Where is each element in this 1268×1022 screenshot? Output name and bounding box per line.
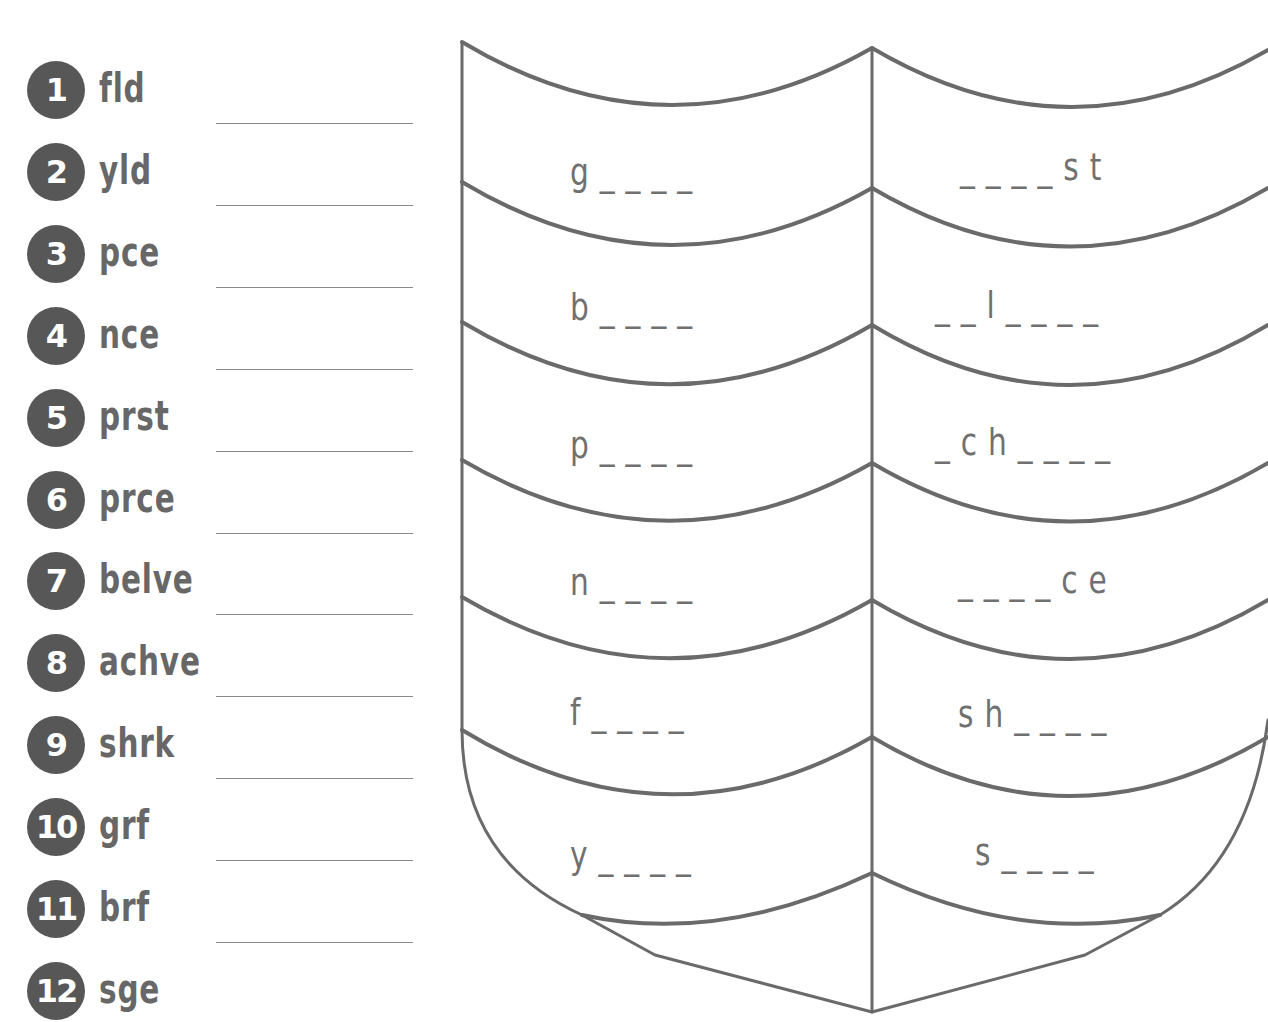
abbreviated-word: sge [99, 964, 160, 1014]
abbreviated-word: grf [99, 800, 150, 850]
answer-line[interactable] [216, 696, 413, 697]
shield-right-slot-1[interactable]: _ _ _ _ s t [960, 145, 1102, 189]
word-item-8: 8 achve [27, 634, 427, 694]
shield-left-edge [462, 42, 582, 915]
answer-line[interactable] [216, 778, 413, 779]
shield-right-slot-4[interactable]: _ _ _ _ c e [958, 558, 1108, 602]
answer-line[interactable] [216, 369, 413, 370]
abbreviated-word: belve [99, 554, 194, 604]
number-badge: 8 [27, 634, 85, 692]
shield-left-slot-2[interactable]: b _ _ _ _ [570, 285, 693, 329]
shield-right-slot-2[interactable]: _ _ l _ _ _ _ [935, 283, 1099, 327]
shield-left-slot-1[interactable]: g _ _ _ _ [570, 150, 693, 194]
shield-right-slot-3[interactable]: _ c h _ _ _ _ [935, 420, 1111, 464]
shield-right-slot-5[interactable]: s h _ _ _ _ [958, 692, 1107, 736]
abbreviated-word: yld [99, 145, 152, 195]
word-item-10: 10 grf [27, 798, 427, 858]
word-item-1: 1 fld [27, 61, 427, 121]
number-badge: 4 [27, 307, 85, 365]
answer-line[interactable] [216, 287, 413, 288]
answer-line[interactable] [216, 942, 413, 943]
shield-right-slot-6[interactable]: s _ _ _ _ [975, 830, 1094, 874]
word-item-4: 4 nce [27, 307, 427, 367]
number-badge: 2 [27, 143, 85, 201]
abbreviated-word: prce [99, 473, 175, 523]
shield-left-slot-5[interactable]: f _ _ _ _ [570, 690, 684, 734]
abbreviated-word: shrk [99, 718, 175, 768]
word-item-2: 2 yld [27, 143, 427, 203]
shield-right-edge [1160, 720, 1268, 915]
number-badge: 6 [27, 471, 85, 529]
number-badge: 9 [27, 716, 85, 774]
word-item-11: 11 brf [27, 880, 427, 940]
word-list: 1 fld 2 yld 3 pce 4 nce 5 prst 6 prce 7 … [0, 0, 440, 1018]
word-item-12: 12 sge [27, 962, 427, 1022]
number-badge: 11 [27, 880, 85, 938]
shield-left-slot-3[interactable]: p _ _ _ _ [570, 423, 693, 467]
number-badge: 10 [27, 798, 85, 856]
number-badge: 5 [27, 389, 85, 447]
word-item-7: 7 belve [27, 552, 427, 612]
abbreviated-word: pce [99, 227, 160, 277]
number-badge: 1 [27, 61, 85, 119]
word-item-9: 9 shrk [27, 716, 427, 776]
abbreviated-word: prst [99, 391, 170, 441]
number-badge: 7 [27, 552, 85, 610]
shield-left-slot-4[interactable]: n _ _ _ _ [570, 560, 693, 604]
shield-bottom-point [582, 915, 1160, 1012]
answer-line[interactable] [216, 614, 413, 615]
abbreviated-word: nce [99, 309, 160, 359]
word-item-5: 5 prst [27, 389, 427, 449]
answer-line[interactable] [216, 451, 413, 452]
abbreviated-word: fld [99, 63, 146, 113]
number-badge: 3 [27, 225, 85, 283]
answer-line[interactable] [216, 123, 413, 124]
word-item-3: 3 pce [27, 225, 427, 285]
word-item-6: 6 prce [27, 471, 427, 531]
abbreviated-word: achve [99, 636, 201, 686]
number-badge: 12 [27, 962, 85, 1020]
answer-line[interactable] [216, 860, 413, 861]
abbreviated-word: brf [99, 882, 150, 932]
answer-line[interactable] [216, 533, 413, 534]
shield-left-slot-6[interactable]: y _ _ _ _ [570, 833, 692, 877]
answer-line[interactable] [216, 205, 413, 206]
